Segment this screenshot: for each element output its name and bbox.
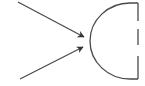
upper-arrow bbox=[18, 2, 84, 37]
lower-arrow bbox=[20, 47, 83, 79]
half-circle-arc bbox=[90, 3, 138, 79]
converging-arrows-diagram bbox=[0, 0, 145, 86]
